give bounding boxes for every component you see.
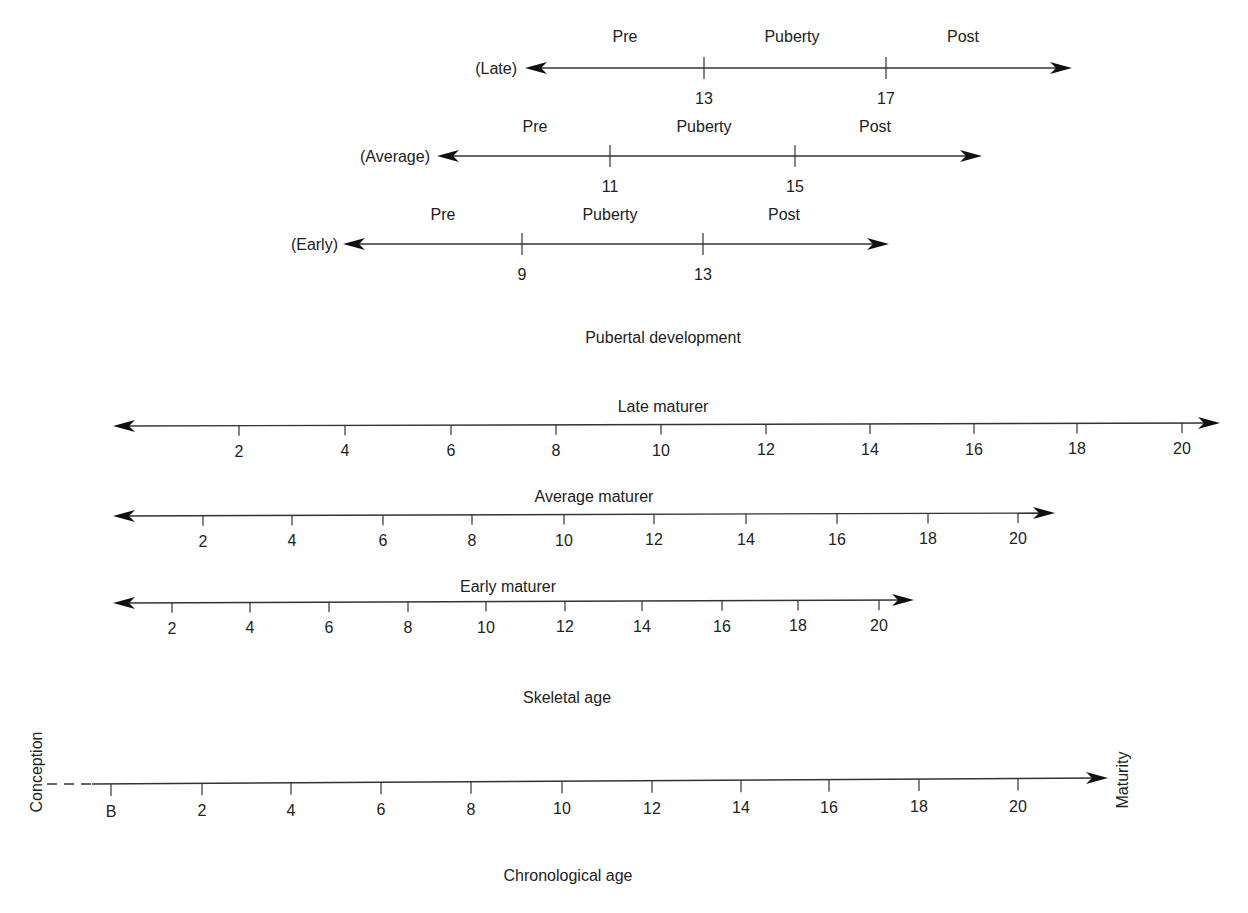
phase-label-pre: Pre — [431, 206, 456, 223]
phase-label-pre: Pre — [613, 28, 638, 45]
pubertal-row-late: (Late)PrePubertyPost1317 — [475, 28, 1072, 107]
row-label: (Late) — [475, 60, 517, 77]
tick-label: 16 — [820, 799, 838, 816]
tick-label: 18 — [1068, 440, 1086, 457]
pubertal-section-label: Pubertal development — [585, 329, 741, 346]
tick-label: 6 — [379, 532, 388, 549]
skeletal-row-late-maturer: Late maturer2468101214161820 — [113, 398, 1220, 460]
tick-label: 2 — [235, 443, 244, 460]
tick-label: 10 — [555, 532, 573, 549]
tick-label: 14 — [861, 441, 879, 458]
tick-label: 16 — [965, 441, 983, 458]
tick-label: 14 — [633, 618, 651, 635]
tick-label: 16 — [828, 531, 846, 548]
tick-label: 6 — [377, 801, 386, 818]
phase-label-post: Post — [768, 206, 801, 223]
axis-line — [123, 423, 1210, 426]
tick-label: 12 — [556, 618, 574, 635]
tick-label: 10 — [553, 800, 571, 817]
tick-label: 8 — [468, 532, 477, 549]
tick-label: B — [106, 803, 117, 820]
tick-label: 20 — [1009, 530, 1027, 547]
tick-label: 14 — [737, 531, 755, 548]
tick-label: 12 — [757, 441, 775, 458]
skeletal-section-label: Skeletal age — [523, 689, 611, 706]
axis-line — [123, 513, 1045, 516]
tick-label: 18 — [789, 617, 807, 634]
tick-label: 18 — [910, 798, 928, 815]
axis-line — [123, 600, 904, 603]
phase-label-puberty: Puberty — [676, 118, 731, 135]
skeletal-row-early-maturer: Early maturer2468101214161820 — [113, 578, 914, 637]
tick-label: 18 — [919, 530, 937, 547]
skeletal-row-average-maturer: Average maturer2468101214161820 — [113, 488, 1055, 550]
tick-label: 6 — [447, 442, 456, 459]
tick-label: 13 — [694, 266, 712, 283]
tick-label: 16 — [713, 618, 731, 635]
tick-label: 17 — [877, 90, 895, 107]
tick-label: 15 — [786, 178, 804, 195]
phase-label-post: Post — [859, 118, 892, 135]
chronological-section-label: Chronological age — [504, 867, 633, 884]
tick-label: 12 — [645, 531, 663, 548]
tick-label: 20 — [1173, 440, 1191, 457]
tick-label: 20 — [870, 617, 888, 634]
phase-label-puberty: Puberty — [764, 28, 819, 45]
tick-label: 11 — [602, 178, 619, 195]
tick-label: 20 — [1009, 798, 1027, 815]
row-title: Early maturer — [460, 578, 557, 595]
phase-label-puberty: Puberty — [582, 206, 637, 223]
pubertal-row-early: (Early)PrePubertyPost913 — [291, 206, 889, 283]
chronological-age-section: B2468101214161820 — [47, 772, 1108, 820]
tick-label: 13 — [695, 90, 713, 107]
maturity-label: Maturity — [1114, 752, 1131, 809]
tick-label: 2 — [198, 802, 207, 819]
row-title: Late maturer — [618, 398, 709, 415]
tick-label: 6 — [325, 619, 334, 636]
maturation-diagram: (Late)PrePubertyPost1317(Average)PrePube… — [0, 0, 1248, 913]
tick-label: 9 — [518, 266, 527, 283]
phase-label-pre: Pre — [523, 118, 548, 135]
tick-label: 8 — [467, 801, 476, 818]
chronological-axis-line — [92, 778, 1098, 784]
row-label: (Average) — [360, 148, 430, 165]
tick-label: 2 — [199, 533, 208, 550]
row-label: (Early) — [291, 236, 338, 253]
tick-label: 8 — [404, 619, 413, 636]
tick-label: 14 — [732, 799, 750, 816]
row-title: Average maturer — [535, 488, 655, 505]
tick-label: 2 — [168, 620, 177, 637]
tick-label: 4 — [287, 802, 296, 819]
tick-label: 10 — [652, 442, 670, 459]
pubertal-row-average: (Average)PrePubertyPost1115 — [360, 118, 982, 195]
tick-label: 8 — [552, 442, 561, 459]
tick-label: 4 — [341, 442, 350, 459]
pubertal-development-section: (Late)PrePubertyPost1317(Average)PrePube… — [291, 28, 1072, 283]
conception-label: Conception — [28, 732, 45, 813]
tick-label: 10 — [477, 619, 495, 636]
tick-label: 4 — [288, 532, 297, 549]
skeletal-age-section: Late maturer2468101214161820Average matu… — [113, 398, 1220, 637]
phase-label-post: Post — [947, 28, 980, 45]
tick-label: 12 — [643, 800, 661, 817]
tick-label: 4 — [246, 619, 255, 636]
